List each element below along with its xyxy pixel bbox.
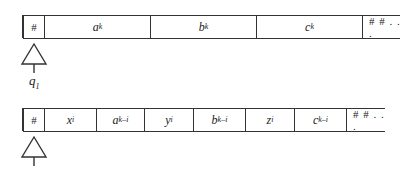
tape-head-arrow-icon	[19, 42, 49, 74]
tape-1-cell-bk: bk	[150, 16, 256, 38]
tape-2-cell-blank-tail: # # . . .	[346, 109, 388, 131]
head-state-label: q1	[29, 73, 40, 91]
tape-1-cell-blank-tail: # # . . .	[362, 16, 402, 38]
tape-1-left-edge	[22, 15, 23, 38]
tape-1: # ak bk ck # # . . .	[23, 15, 400, 39]
tape-2-cell-a-k-i: ak–i	[96, 109, 144, 131]
tape-1-cell-ck: ck	[256, 16, 362, 38]
tape-2-cell-b-k-i: bk–i	[193, 109, 245, 131]
tape-2-cell-zi: zi	[245, 109, 294, 131]
tape-2-cell-yi: yi	[144, 109, 193, 131]
tape-2: # xi ak–i yi bk–i zi ck–i # # . . .	[23, 108, 385, 132]
tape-2-cell-xi: xi	[44, 109, 96, 131]
tape-head-arrow-icon-2	[19, 135, 49, 167]
tape-2-left-edge	[22, 108, 23, 131]
tape-2-cell-c-k-i: ck–i	[294, 109, 346, 131]
tape-1-cell-hash: #	[23, 16, 44, 38]
tape-1-cell-ak: ak	[44, 16, 150, 38]
tape-2-cell-hash: #	[23, 109, 44, 131]
